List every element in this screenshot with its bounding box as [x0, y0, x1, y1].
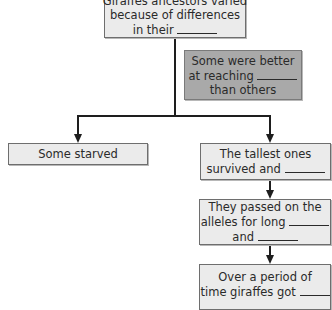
connector-trunk	[174, 38, 176, 117]
node-text: time giraffes got	[200, 285, 295, 299]
node-text-with-blank: alleles for long	[201, 214, 329, 229]
node-better-at-reaching: Some were better at reaching than others	[184, 50, 302, 100]
arrow-down-icon	[74, 134, 82, 143]
node-text: alleles for long	[201, 215, 286, 229]
node-over-period-of-time: Over a period of time giraffes got	[199, 264, 331, 310]
node-text: Over a period of	[218, 270, 311, 284]
node-text-with-blank: time giraffes got	[200, 284, 329, 299]
connector-horizontal	[77, 115, 271, 117]
answer-blank	[285, 161, 325, 173]
node-tallest-survived: The tallest ones survived and	[200, 143, 331, 180]
node-text: because of differences	[110, 8, 240, 22]
node-text: at reaching	[189, 69, 254, 83]
node-text-with-blank: and	[232, 229, 297, 244]
answer-blank	[258, 229, 298, 241]
node-text: They passed on the	[208, 200, 321, 214]
node-text: survived and	[206, 162, 280, 176]
node-text: Some starved	[38, 147, 118, 161]
answer-blank	[257, 68, 297, 80]
answer-blank	[289, 214, 329, 226]
node-text: Some were better	[191, 54, 294, 68]
connector-right-drop	[269, 115, 271, 135]
node-passed-on-alleles: They passed on the alleles for long and	[199, 199, 331, 245]
node-text-with-blank: at reaching	[189, 68, 298, 83]
answer-blank	[177, 22, 217, 34]
node-text: than others	[210, 83, 276, 97]
node-text: Giraffes ancestors varied	[103, 0, 247, 8]
arrow-down-icon	[266, 134, 274, 143]
node-text: The tallest ones	[220, 147, 312, 161]
connector-left-drop	[77, 115, 79, 135]
node-text: in their	[133, 23, 174, 37]
arrow-down-icon	[266, 255, 274, 264]
node-some-starved: Some starved	[8, 143, 148, 165]
answer-blank	[300, 284, 330, 296]
node-text: and	[232, 230, 254, 244]
node-text-with-blank: survived and	[206, 161, 324, 176]
node-ancestors-varied: Giraffes ancestors varied because of dif…	[104, 0, 246, 38]
arrow-down-icon	[266, 190, 274, 199]
node-text-with-blank: in their	[133, 22, 218, 37]
